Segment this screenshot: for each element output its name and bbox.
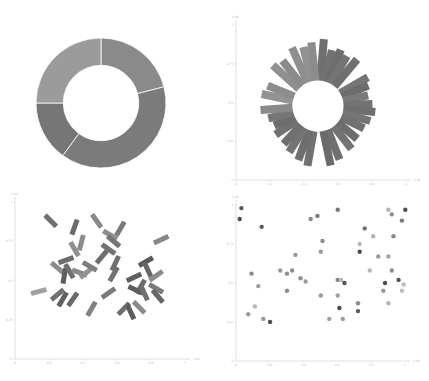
scatter-point: [285, 271, 289, 275]
rect-mark: [132, 300, 147, 315]
scatter-point: [315, 214, 319, 218]
y-axis-end-label: 1.00: [232, 195, 239, 199]
y-tick-label: 0.75: [227, 62, 234, 66]
scatter-point: [339, 278, 343, 282]
x-tick-label: 1: [184, 361, 186, 365]
scatter-point: [319, 250, 323, 254]
scatter-point: [403, 207, 407, 211]
y-tick-label: 0.25: [227, 139, 234, 143]
rect-marks: [30, 213, 169, 320]
scatter-point: [246, 312, 250, 316]
x-tick-label: 0.2: [47, 361, 52, 365]
scatter-point: [278, 268, 282, 272]
x-tick-label: 0.6: [115, 361, 120, 365]
scatter-point: [341, 317, 345, 321]
y-tick-label: 0: [232, 359, 234, 363]
rectangle-scatter-chart: 00.20.40.60.8100.250.50.7511.001.00: [6, 192, 200, 365]
x-tick-label: 0.2: [267, 363, 272, 367]
rect-mark: [153, 234, 170, 245]
scatter-point: [356, 301, 360, 305]
y-tick-label: 0: [11, 357, 13, 361]
y-tick-label: 0.5: [8, 279, 13, 283]
scatter-point: [390, 268, 394, 272]
scatter-point: [256, 284, 260, 288]
x-tick-label: 0.6: [335, 363, 340, 367]
x-tick-label: 0.8: [369, 363, 374, 367]
x-tick-label: 0.8: [370, 182, 375, 186]
scatter-point: [391, 234, 395, 238]
y-tick-label: 0.25: [6, 318, 13, 322]
rect-mark: [101, 286, 117, 299]
scatter-point: [259, 225, 263, 229]
x-tick-label: 0.4: [302, 182, 307, 186]
rect-mark: [77, 234, 86, 251]
scatter-point: [336, 207, 340, 211]
y-tick-label: 1: [11, 200, 13, 204]
x-tick-label: 0: [235, 182, 237, 186]
dot-scatter-chart: 00.20.40.60.8100.250.50.7511.001.00: [227, 195, 420, 367]
x-tick-label: 1: [404, 363, 406, 367]
donut-slice-b: [63, 87, 166, 168]
y-tick-label: 1: [232, 23, 234, 27]
scatter-point: [285, 289, 289, 293]
rect-mark: [90, 213, 103, 229]
scatter-point: [386, 301, 390, 305]
y-axis-end-label: 1.00: [232, 15, 239, 19]
scatter-point: [363, 226, 367, 230]
scatter-point: [342, 281, 346, 285]
scatter-point: [319, 293, 323, 297]
x-axis-end-label: 1.00: [413, 359, 420, 363]
scatter-point: [390, 212, 394, 216]
x-tick-label: 0.4: [81, 361, 86, 365]
x-tick-label: 0.2: [268, 182, 273, 186]
scatter-point: [368, 268, 372, 272]
scatter-point: [253, 304, 257, 308]
scatter-point: [337, 306, 341, 310]
rect-mark: [114, 221, 126, 237]
scatter-point: [249, 271, 253, 275]
x-axis-end-label: 1.00: [193, 357, 200, 361]
y-tick-label: 0.75: [227, 242, 234, 246]
x-tick-label: 0.8: [149, 361, 154, 365]
scatter-point: [381, 289, 385, 293]
scatter-point: [356, 309, 360, 313]
scatter-point: [293, 253, 297, 257]
rect-mark: [85, 301, 97, 317]
x-tick-label: 1: [405, 182, 407, 186]
scatter-point: [237, 217, 241, 221]
y-tick-label: 0.5: [229, 281, 234, 285]
donut-slice-d: [36, 38, 101, 103]
scatter-point: [357, 250, 361, 254]
x-tick-label: 0: [14, 361, 16, 365]
x-axis-end-label: 1.00: [414, 178, 421, 182]
rect-mark: [142, 261, 153, 278]
rect-ticks: 00.20.40.60.8100.250.50.7511.001.00: [6, 192, 200, 365]
x-tick-label: 0: [235, 363, 237, 367]
donut-slice-a: [101, 38, 164, 94]
x-tick-label: 0.4: [301, 363, 306, 367]
y-tick-label: 0.5: [229, 101, 234, 105]
chart-grid: 00.20.40.60.8100.250.50.7511.001.00 00.2…: [0, 0, 429, 381]
dot-ticks: 00.20.40.60.8100.250.50.7511.001.00: [227, 195, 420, 367]
scatter-point: [401, 282, 405, 286]
scatter-point: [386, 207, 390, 211]
scatter-point: [303, 279, 307, 283]
rect-mark: [58, 255, 75, 265]
scatter-point: [336, 293, 340, 297]
scatter-point: [327, 317, 331, 321]
radial-bars: [260, 39, 375, 167]
scatter-point: [400, 289, 404, 293]
scatter-point: [298, 276, 302, 280]
scatter-point: [383, 281, 387, 285]
scatter-point: [261, 317, 265, 321]
scatter-point: [371, 234, 375, 238]
donut-chart: [36, 38, 166, 168]
scatter-point: [357, 242, 361, 246]
y-axis-end-label: 1.00: [11, 192, 18, 196]
y-tick-label: 0.25: [227, 320, 234, 324]
rect-mark: [30, 287, 47, 296]
scatter-point: [396, 278, 400, 282]
x-tick-label: 0.6: [336, 182, 341, 186]
rect-mark: [126, 272, 143, 283]
y-tick-label: 0.75: [6, 239, 13, 243]
